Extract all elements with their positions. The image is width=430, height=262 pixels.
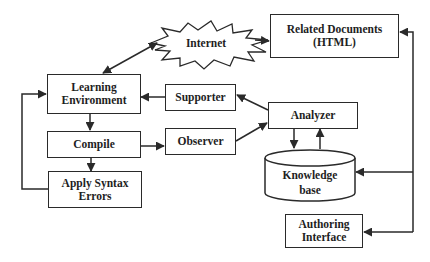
observer-label: Observer — [178, 135, 224, 148]
knowledge-base-label-line1: Knowledge — [265, 169, 355, 182]
supporter-label: Supporter — [175, 91, 225, 104]
edge-internet-related — [255, 40, 269, 41]
authoring-interface-box[interactable]: Authoring Interface — [285, 214, 363, 248]
related-documents-box[interactable]: Related Documents (HTML) — [270, 14, 399, 58]
edge-apply-learning-loop — [22, 94, 48, 189]
apply-syntax-errors-label-line1: Apply Syntax — [62, 177, 129, 190]
edge-observer-analyzer — [236, 123, 267, 141]
edge-internet-learning — [103, 43, 157, 73]
learning-environment-label-line1: Learning — [71, 81, 116, 94]
apply-syntax-errors-box[interactable]: Apply Syntax Errors — [48, 171, 142, 208]
knowledge-base-label-line2: base — [265, 184, 355, 197]
observer-box[interactable]: Observer — [165, 128, 236, 155]
learning-environment-box[interactable]: Learning Environment — [47, 74, 141, 114]
compile-label: Compile — [73, 138, 115, 151]
edge-bus-related — [400, 32, 413, 232]
related-documents-label-line1: Related Documents — [287, 23, 383, 36]
learning-environment-label-line2: Environment — [62, 94, 127, 107]
internet-label: Internet — [178, 37, 234, 50]
analyzer-box[interactable]: Analyzer — [268, 102, 358, 129]
apply-syntax-errors-label-line2: Errors — [78, 190, 111, 203]
knowledge-base-label[interactable]: Knowledge base — [265, 169, 355, 197]
supporter-box[interactable]: Supporter — [165, 84, 236, 111]
authoring-interface-label-line2: Interface — [302, 231, 347, 244]
authoring-interface-label-line1: Authoring — [298, 218, 349, 231]
analyzer-label: Analyzer — [291, 109, 336, 122]
related-documents-label-line2: (HTML) — [313, 36, 356, 49]
edge-analyzer-supporter — [237, 95, 268, 110]
compile-box[interactable]: Compile — [47, 131, 141, 158]
